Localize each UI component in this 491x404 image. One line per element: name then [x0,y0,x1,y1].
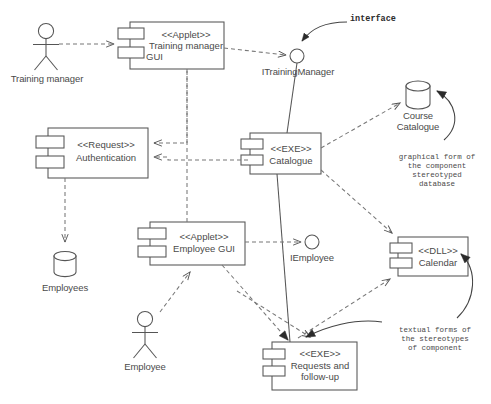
annotation-textual-note-line3: of component [383,344,487,354]
connector-gui-to-authentication [154,69,187,143]
interface-itrainingmanager-shape [290,49,304,63]
component-label-requests-stereotype: <<EXE>> [285,348,355,360]
actor-label-training-manager: Training manager [8,73,86,84]
connector-catalogue-to-course-catalogue [321,103,400,148]
callout-interface-curve [302,22,347,41]
component-label-training-manager-gui-name2: GUI [146,51,176,63]
database-employees-shape [54,251,76,276]
connector-requests-to-calendar [298,279,390,338]
interface-iemployee-shape [305,235,319,249]
uml-component-diagram: Training manager GUI --> ITrainingManage… [0,0,491,404]
component-label-catalogue-stereotype: <<EXE>> [262,143,320,155]
connector-catalogue-to-calendar [321,170,392,233]
component-label-calendar-name: Calendar [410,257,466,269]
component-label-authentication-name: Authentication [66,152,146,164]
connector-authentication-to-requests [237,291,310,337]
annotation-interface-label: interface [350,14,396,24]
component-label-catalogue-name: Catalogue [262,155,320,167]
component-label-authentication-stereotype: <<Request>> [66,139,146,151]
interface-label-iemployee: IEmployee [281,252,343,263]
callout-textual-note-curve-requests [306,321,382,337]
actor-label-employee: Employee [114,361,176,372]
database-label-employees: Employees [36,282,94,293]
interface-label-itrainingmanager: ITrainingManager [253,66,343,77]
component-label-training-manager-gui-name: Training manager [146,40,226,52]
connector-gui-to-itrainingmanager [224,48,286,55]
database-label-course-catalogue-line1: Course [390,110,446,121]
connector-catalogue-to-authentication [154,157,248,160]
actor-employee-figure [132,311,158,358]
component-label-requests-name2: follow-up [285,371,355,383]
component-label-employee-gui-stereotype: <<Applet>> [164,231,244,243]
component-label-requests-name1: Requests and [285,360,355,372]
component-label-training-manager-gui-stereotype: <<Applet>> [146,29,226,41]
component-label-calendar-stereotype: <<DLL>> [410,245,466,257]
component-label-employee-gui-name: Employee GUI [164,243,244,255]
connector-employee-to-employeegui [160,272,190,312]
database-label-course-catalogue-line2: Catalogue [390,121,446,132]
annotation-database-note-line4: database [384,180,490,190]
database-course-catalogue-shape [406,81,430,109]
actor-training-manager-figure [33,23,59,70]
